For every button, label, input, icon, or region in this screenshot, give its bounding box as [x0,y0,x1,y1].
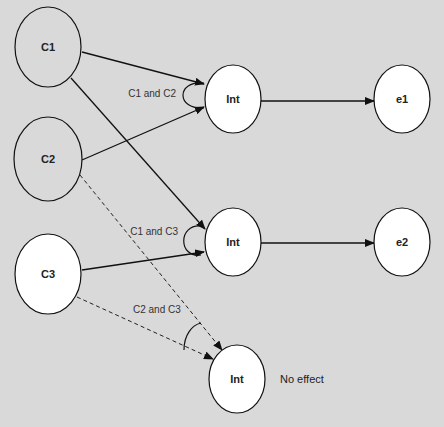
interaction-diagram: C1 C2 C3 Int Int Int e1 e2 C1 and C2 C1 … [0,0,444,427]
node-e1: e1 [374,65,430,133]
node-e2-label: e2 [396,236,408,248]
node-c3-label: C3 [41,268,55,280]
node-c1: C1 [15,7,81,87]
edge-c2-to-int1 [82,107,204,160]
edge-c1-to-int1 [82,52,204,84]
node-int-2: Int [205,208,261,276]
node-int-1: Int [205,65,261,133]
node-c3: C3 [15,234,81,314]
node-int-1-label: Int [226,93,240,105]
node-int-3-label: Int [230,373,244,385]
annotation-c2-and-c3: C2 and C3 [133,304,181,315]
edge-c3-to-int2 [82,252,204,270]
edge-c2-to-int3-dashed [80,175,222,350]
node-int-3: Int [209,345,265,413]
node-int-2-label: Int [226,236,240,248]
node-e1-label: e1 [396,93,408,105]
annotation-c1-and-c2: C1 and C2 [128,88,176,99]
annotation-c1-and-c3: C1 and C3 [130,226,178,237]
node-c2-label: C2 [41,153,55,165]
node-c1-label: C1 [41,41,55,53]
arc-c2-c3 [184,323,201,350]
arc-c1-c2 [183,83,204,108]
node-e2: e2 [374,208,430,276]
arc-c1-c3 [184,226,201,255]
no-effect-label: No effect [280,373,324,385]
node-c2: C2 [14,117,82,201]
